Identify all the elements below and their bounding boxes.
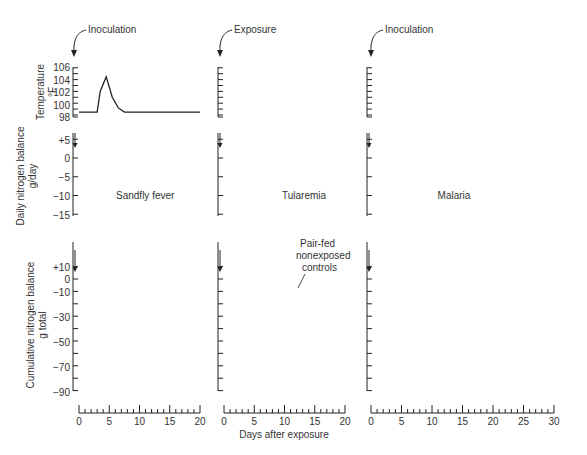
- temperature-tick-labels: 106 104 102 100 98: [53, 62, 70, 123]
- x-axis-label: Days after exposure: [239, 429, 329, 440]
- svg-text:15: 15: [457, 416, 469, 427]
- days-axis-2: 051015202530: [368, 405, 560, 427]
- svg-text:−10: −10: [53, 191, 70, 202]
- svg-text:10: 10: [426, 416, 438, 427]
- svg-text:106: 106: [53, 62, 70, 73]
- svg-text:0: 0: [221, 416, 227, 427]
- svg-text:−50: −50: [53, 337, 70, 348]
- svg-text:+10: +10: [53, 262, 70, 273]
- svg-text:0: 0: [368, 416, 374, 427]
- svg-text:−70: −70: [53, 362, 70, 373]
- svg-text:104: 104: [53, 75, 70, 86]
- svg-text:Daily nitrogen balance: Daily nitrogen balance: [15, 126, 26, 225]
- svg-text:10: 10: [279, 416, 291, 427]
- svg-text:Pair-fed: Pair-fed: [300, 238, 335, 249]
- svg-text:Inoculation: Inoculation: [88, 24, 136, 35]
- svg-text:102: 102: [53, 87, 70, 98]
- svg-text:25: 25: [518, 416, 530, 427]
- svg-text:15: 15: [309, 416, 321, 427]
- sandfly-temperature-line: [79, 77, 200, 112]
- svg-text:nonexposed: nonexposed: [296, 250, 351, 261]
- days-axis-0: 05101520: [76, 405, 206, 427]
- tularemia-event-annotation: Exposure: [217, 24, 277, 57]
- svg-text:20: 20: [487, 416, 499, 427]
- temperature-axis-0: [73, 67, 78, 117]
- svg-text:5: 5: [106, 416, 112, 427]
- svg-text:10: 10: [134, 416, 146, 427]
- nitrogen-balance-figure: Temperature °F Daily nitrogen balance g/…: [0, 0, 587, 455]
- svg-text:−15: −15: [53, 210, 70, 221]
- svg-text:0: 0: [64, 153, 70, 164]
- daily-tick-labels: +5 0 −5 −10 −15: [53, 135, 70, 221]
- svg-text:5: 5: [399, 416, 405, 427]
- svg-text:Cumulative nitrogen balance: Cumulative nitrogen balance: [25, 261, 36, 388]
- controls-annotation: Pair-fed nonexposed controls: [296, 238, 351, 288]
- daily-nitrogen-ylabel: Daily nitrogen balance g/day: [15, 126, 38, 225]
- temperature-axis-1: [218, 67, 223, 117]
- svg-text:−90: −90: [53, 387, 70, 398]
- svg-text:20: 20: [339, 416, 351, 427]
- svg-text:−5: −5: [59, 172, 71, 183]
- svg-text:30: 30: [548, 416, 560, 427]
- svg-text:0: 0: [64, 274, 70, 285]
- malaria-event-annotation: Inoculation: [368, 24, 433, 57]
- cumulative-tick-labels: +10 0 −10 −30 −50 −70 −90: [53, 262, 70, 398]
- sandfly-event-annotation: Inoculation: [71, 24, 136, 57]
- svg-text:20: 20: [194, 416, 206, 427]
- malaria-label: Malaria: [438, 190, 471, 201]
- svg-text:Exposure: Exposure: [234, 24, 277, 35]
- svg-text:−10: −10: [53, 287, 70, 298]
- days-axis-1: 05101520: [221, 405, 351, 427]
- svg-text:100: 100: [53, 100, 70, 111]
- svg-text:controls: controls: [302, 262, 337, 273]
- cumulative-nitrogen-ylabel: Cumulative nitrogen balance g total: [25, 261, 48, 388]
- svg-text:0: 0: [76, 416, 82, 427]
- svg-text:−30: −30: [53, 312, 70, 323]
- temperature-axis-2: [367, 67, 372, 117]
- svg-text:98: 98: [59, 112, 71, 123]
- sandfly-label: Sandfly fever: [116, 190, 175, 201]
- svg-text:5: 5: [251, 416, 257, 427]
- svg-text:Inoculation: Inoculation: [385, 24, 433, 35]
- svg-text:g/day: g/day: [27, 164, 38, 188]
- svg-text:g total: g total: [37, 311, 48, 338]
- svg-text:+5: +5: [59, 135, 71, 146]
- svg-text:Temperature: Temperature: [35, 63, 46, 120]
- svg-text:15: 15: [164, 416, 176, 427]
- tularemia-label: Tularemia: [282, 190, 327, 201]
